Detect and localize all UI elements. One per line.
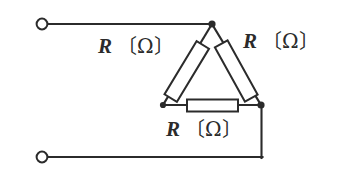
resistor-left-unit: 〔Ω〕 xyxy=(117,34,174,58)
resistor-left-symbol: R xyxy=(98,34,117,58)
bottom-right-node-dot xyxy=(257,101,264,108)
resistor-right-unit: 〔Ω〕 xyxy=(262,29,319,53)
resistor-bottom-unit: 〔Ω〕 xyxy=(185,117,242,141)
circuit-figure: R〔Ω〕 R〔Ω〕 R〔Ω〕 xyxy=(0,0,338,179)
top-terminal-circle xyxy=(37,19,48,30)
resistor-right-symbol: R xyxy=(243,29,262,53)
bottom-left-node-dot xyxy=(160,102,166,108)
resistor-bottom-body xyxy=(187,100,238,112)
terminal-group xyxy=(37,19,48,163)
resistor-bottom-symbol: R xyxy=(166,117,185,141)
circuit-schematic-canvas xyxy=(0,0,338,179)
apex-node-dot xyxy=(208,20,215,27)
resistor-right-label: R〔Ω〕 xyxy=(243,31,319,52)
resistor-bottom-label: R〔Ω〕 xyxy=(166,119,242,140)
bottom-terminal-circle xyxy=(37,152,48,163)
resistor-left-label: R〔Ω〕 xyxy=(98,36,174,57)
